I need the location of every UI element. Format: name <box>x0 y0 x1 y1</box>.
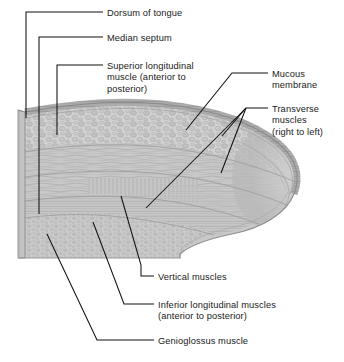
cut-face-shadow <box>18 110 25 258</box>
label-mucous-membrane: Mucousmembrane <box>272 69 317 92</box>
label-transverse-muscles: Transversemuscles(right to left) <box>272 104 323 138</box>
label-dorsum-of-tongue: Dorsum of tongue <box>107 8 182 19</box>
label-genioglossus-muscle: Genioglossus muscle <box>158 336 248 347</box>
label-median-septum: Median septum <box>107 33 172 44</box>
label-superior-longitudinal-muscle: Superior longitudinalmuscle (anterior to… <box>107 61 194 95</box>
label-inferior-longitudinal-muscles: Inferior longitudinal muscles(anterior t… <box>158 300 276 323</box>
label-vertical-muscles: Vertical muscles <box>158 272 227 283</box>
